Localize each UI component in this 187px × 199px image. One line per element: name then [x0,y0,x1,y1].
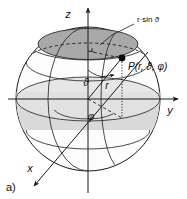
y-axis-label: y [166,104,174,116]
point-p-label: P(r, ϑ, φ) [128,61,167,72]
spherical-coordinates-figure: z y x r·sin ϑ P(r, ϑ, φ) ϑ r φ a) [0,0,187,199]
polar-angle-label: ϑ [83,77,89,88]
right-angle-marker-dot [91,50,93,52]
panel-label: a) [6,181,16,193]
projection-radius-label: r·sin ϑ [137,15,160,24]
point-p-group [119,55,126,62]
z-axis-label: z [64,8,71,20]
x-axis-label: x [26,162,33,174]
azimuth-angle-label: φ [88,111,95,122]
point-p-marker [119,55,126,62]
figure-canvas: z y x r·sin ϑ P(r, ϑ, φ) ϑ r φ a) [0,0,187,199]
